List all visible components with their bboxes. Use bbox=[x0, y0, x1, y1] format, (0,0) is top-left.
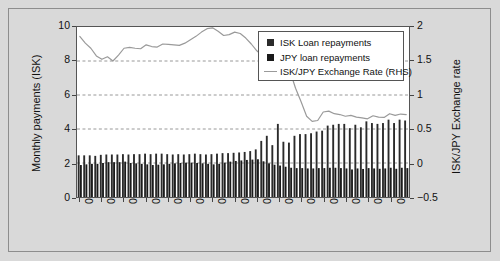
y-tick-label-right: 1.5 bbox=[417, 53, 432, 65]
x-tick-mark bbox=[346, 198, 347, 202]
y-tick-label-left: 0 bbox=[50, 191, 70, 203]
legend-label-exchange-rate: ISK/JPY Exchange Rate (RHS) bbox=[280, 67, 412, 77]
y-axis-title-right: ISK/JPY Exchange rate bbox=[450, 59, 462, 174]
x-tick-mark bbox=[324, 198, 325, 202]
y-tick-mark-left bbox=[72, 198, 76, 199]
x-tick-mark bbox=[146, 198, 147, 202]
legend-item-exchange-rate: ISK/JPY Exchange Rate (RHS) bbox=[264, 65, 398, 79]
legend-swatch-square-icon bbox=[267, 54, 274, 61]
x-tick-mark bbox=[368, 198, 369, 202]
y-tick-label-right: 0.5 bbox=[417, 122, 432, 134]
legend-swatch-square-icon bbox=[267, 39, 274, 46]
y-tick-mark-right bbox=[410, 26, 414, 27]
legend-line-icon bbox=[264, 71, 277, 72]
figure-root: Monthly payments (ISK) ISK/JPY Exchange … bbox=[0, 0, 500, 261]
y-tick-mark-right bbox=[410, 60, 414, 61]
x-tick-mark bbox=[212, 198, 213, 202]
legend-label-isk: ISK Loan repayments bbox=[280, 38, 371, 48]
x-tick-mark bbox=[257, 198, 258, 202]
x-tick-mark bbox=[235, 198, 236, 202]
y-tick-label-left: 8 bbox=[50, 53, 70, 65]
y-tick-label-right: −0.5 bbox=[417, 191, 438, 203]
y-tick-label-left: 6 bbox=[50, 88, 70, 100]
x-tick-mark bbox=[79, 198, 80, 202]
x-tick-mark bbox=[101, 198, 102, 202]
y-tick-label-left: 4 bbox=[50, 122, 70, 134]
y-tick-label-right: 1 bbox=[417, 88, 423, 100]
legend-label-jpy: JPY loan repayments bbox=[280, 53, 370, 63]
x-tick-mark bbox=[168, 198, 169, 202]
y-tick-mark-right bbox=[410, 164, 414, 165]
x-tick-mark bbox=[190, 198, 191, 202]
y-tick-label-right: 2 bbox=[417, 19, 423, 31]
legend-item-isk: ISK Loan repayments bbox=[264, 36, 398, 50]
y-tick-mark-right bbox=[410, 129, 414, 130]
y-tick-label-right: 0 bbox=[417, 157, 423, 169]
y-tick-label-left: 2 bbox=[50, 157, 70, 169]
x-tick-mark bbox=[391, 198, 392, 202]
x-tick-mark bbox=[301, 198, 302, 202]
x-tick-mark bbox=[123, 198, 124, 202]
x-tick-mark bbox=[279, 198, 280, 202]
y-tick-mark-right bbox=[410, 198, 414, 199]
legend-item-jpy: JPY loan repayments bbox=[264, 51, 398, 65]
y-tick-label-left: 10 bbox=[50, 19, 70, 31]
chart-legend: ISK Loan repayments JPY loan repayments … bbox=[258, 31, 404, 81]
y-tick-mark-right bbox=[410, 95, 414, 96]
y-axis-title-left: Monthly payments (ISK) bbox=[30, 55, 42, 172]
